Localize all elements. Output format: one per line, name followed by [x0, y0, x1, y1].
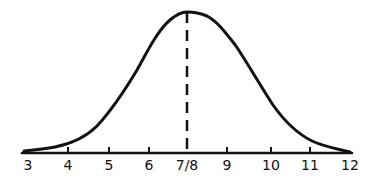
tick-label-5: 5 [105, 157, 114, 173]
tick-label-7-8: 7/8 [176, 157, 199, 173]
tick-label-11: 11 [301, 157, 319, 173]
tick-label-12: 12 [341, 157, 359, 173]
tick-label-4: 4 [64, 157, 73, 173]
tick-label-10: 10 [262, 157, 280, 173]
tick-label-6: 6 [145, 157, 154, 173]
tick-label-9: 9 [223, 157, 232, 173]
tick-label-3: 3 [24, 157, 33, 173]
